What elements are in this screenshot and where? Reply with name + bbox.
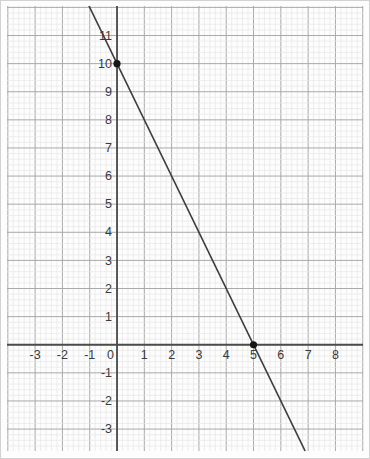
y-tick-label: -2: [101, 394, 112, 408]
y-tick-label: 7: [105, 141, 112, 155]
coordinate-plane: -3-2-10123456781110987654321-1-2-3: [1, 1, 369, 458]
x-tick-label: 2: [168, 348, 175, 362]
x-tick-label: 5: [250, 348, 257, 362]
y-tick-label: 2: [105, 282, 112, 296]
x-tick-label: 0: [107, 348, 114, 362]
y-tick-label: 4: [105, 225, 112, 239]
y-tick-label: -1: [101, 366, 112, 380]
y-tick-label: 1: [105, 310, 112, 324]
x-tick-label: 6: [277, 348, 284, 362]
x-tick-label: -3: [30, 348, 41, 362]
data-point: [113, 60, 120, 67]
y-tick-label: 9: [105, 85, 112, 99]
y-tick-label: 8: [105, 113, 112, 127]
x-tick-label: 8: [332, 348, 339, 362]
x-tick-label: -2: [57, 348, 68, 362]
y-tick-label: 3: [105, 254, 112, 268]
x-tick-label: 4: [223, 348, 230, 362]
x-tick-label: 7: [305, 348, 312, 362]
y-tick-label: 11: [99, 29, 112, 43]
x-tick-label: 3: [195, 348, 202, 362]
x-tick-label: 1: [141, 348, 148, 362]
y-tick-label: 5: [105, 197, 112, 211]
y-tick-label: 10: [98, 57, 112, 71]
graph-figure: -3-2-10123456781110987654321-1-2-3: [0, 0, 370, 459]
y-tick-label: -3: [101, 422, 112, 436]
y-tick-label: 6: [105, 169, 112, 183]
x-tick-label: -1: [84, 348, 95, 362]
